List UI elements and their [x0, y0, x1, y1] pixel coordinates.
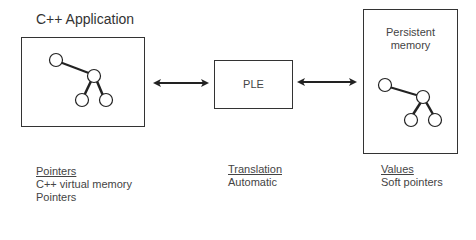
legend-left-line1: C++ virtual memory: [36, 178, 132, 191]
legend-left-line2: Pointers: [36, 191, 132, 204]
legend-left: Pointers C++ virtual memory Pointers: [36, 165, 132, 204]
right-tree-graph-icon: [379, 79, 442, 127]
legend-middle: Translation Automatic: [228, 163, 282, 189]
left-tree-graph-icon: [50, 54, 113, 107]
legend-middle-line1: Automatic: [228, 176, 282, 189]
legend-right-line1: Soft pointers: [381, 176, 443, 189]
legend-right: Values Soft pointers: [381, 163, 443, 189]
legend-right-header: Values: [381, 163, 443, 176]
legend-middle-header: Translation: [228, 163, 282, 176]
legend-left-header: Pointers: [36, 165, 132, 178]
